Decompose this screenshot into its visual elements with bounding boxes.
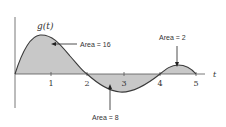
function-label: g(t) bbox=[37, 21, 54, 31]
annotation-area-2: Area = 2 bbox=[159, 34, 186, 41]
tick-label-4: 4 bbox=[157, 79, 162, 88]
area-chart: 1 2 3 4 5 t g(t) Area = 16 Area = 8 Area… bbox=[0, 0, 226, 127]
area-region-0-2 bbox=[15, 35, 87, 74]
tick-label-5: 5 bbox=[193, 79, 198, 88]
x-axis-label: t bbox=[213, 70, 217, 79]
annotation-area-16: Area = 16 bbox=[80, 41, 111, 48]
tick-label-1: 1 bbox=[48, 79, 53, 88]
annotation-area-8: Area = 8 bbox=[92, 114, 119, 121]
tick-label-2: 2 bbox=[84, 79, 89, 88]
tick-label-3: 3 bbox=[121, 79, 126, 88]
